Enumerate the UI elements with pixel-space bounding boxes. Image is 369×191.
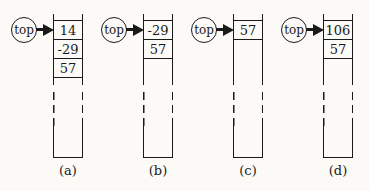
stack-empty-section [233, 39, 263, 85]
top-pointer-label: top [14, 24, 34, 36]
top-pointer-circle: top [281, 17, 307, 43]
stack-cell: 57 [323, 39, 353, 58]
stack-cell: 106 [323, 20, 353, 39]
top-pointer-circle: top [191, 17, 217, 43]
stack-empty-section [143, 58, 173, 85]
stack-cell: 57 [233, 20, 263, 39]
stack-cell: -29 [143, 20, 173, 39]
stack-bottom-section [323, 126, 353, 158]
stack-label: (d) [313, 163, 363, 179]
stack-cell: 57 [53, 58, 83, 77]
stack-d: top 106 57 (d) [270, 0, 360, 191]
stack-label: (c) [223, 163, 273, 179]
stack-cell: 57 [143, 39, 173, 58]
stack-b: top -29 57 (b) [90, 0, 180, 191]
stack-c: top 57 (c) [180, 0, 270, 191]
stack-label: (b) [133, 163, 183, 179]
stack-empty-section [53, 77, 83, 85]
top-pointer-circle: top [11, 17, 37, 43]
stack-dashed-section [323, 92, 353, 126]
top-pointer-label: top [104, 24, 124, 36]
stack-bottom-section [143, 126, 173, 158]
stack-cell: -29 [53, 39, 83, 58]
top-pointer-label: top [194, 24, 214, 36]
stack-a: top 14 -29 57 (a) [0, 0, 90, 191]
stack-label: (a) [43, 163, 93, 179]
stack-empty-section [323, 58, 353, 85]
stack-dashed-section [143, 92, 173, 126]
top-pointer-label: top [284, 24, 304, 36]
stack-dashed-section [53, 92, 83, 126]
stack-bottom-section [53, 126, 83, 158]
stack-dashed-section [233, 92, 263, 126]
stack-cell: 14 [53, 20, 83, 39]
top-pointer-circle: top [101, 17, 127, 43]
stack-diagram: top 14 -29 57 (a) top -29 57 (b) top [0, 0, 369, 191]
stack-bottom-section [233, 126, 263, 158]
